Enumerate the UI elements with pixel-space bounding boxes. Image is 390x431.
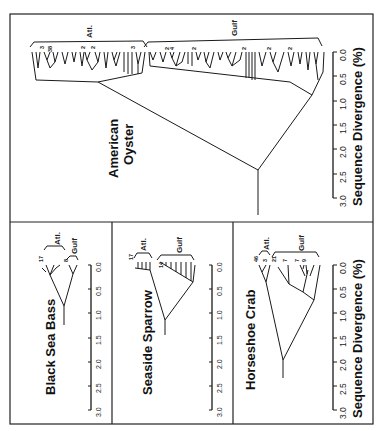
phylogeny-figure: American Oyster [0,0,390,431]
svg-text:1.5: 1.5 [216,335,223,345]
oyster-gulf-bracket [144,38,322,47]
svg-text:2.5: 2.5 [216,383,223,393]
oyster-axis: 0.0 0.5 1.0 1.5 2.0 2.5 3.0 Sequence Div… [333,47,365,207]
svg-text:0.5: 0.5 [338,286,348,298]
sparrow-atl-count: 17 [128,254,134,260]
svg-text:1.5: 1.5 [338,335,348,347]
svg-text:0.5: 0.5 [338,73,348,85]
svg-text:3.0: 3.0 [338,195,348,207]
svg-text:1.0: 1.0 [95,310,102,320]
svg-text:2.0: 2.0 [338,359,348,371]
crab-gulf-label: Gulf [297,235,306,251]
oyster-atl-tips [36,52,141,74]
svg-text:0.5: 0.5 [95,286,102,296]
sparrow-atl-bracket [134,253,152,258]
crab-atl-label: Atl. [262,237,271,250]
oyster-gulf-branch [258,95,312,170]
svg-text:2.0: 2.0 [338,146,348,158]
oyster-axis-label: Sequence Divergence (%) [350,47,365,206]
bass-atl-bracket [44,246,65,250]
oyster-atl-count: 3 [39,46,45,49]
oyster-atl-label: Atl. [85,25,94,38]
svg-text:2.5: 2.5 [95,383,102,393]
svg-text:3.0: 3.0 [95,407,102,417]
svg-text:1.0: 1.0 [216,310,223,320]
panel-american-oyster: American Oyster [30,20,365,215]
oyster-atl-count: 2 [90,46,96,49]
sparrow-title: Seaside Sparrow [140,289,155,395]
crab-gulf-count: 7 [282,259,288,262]
oyster-gulf-count: 2 [287,47,293,50]
bass-atl-count: 17 [38,256,44,262]
svg-text:2.0: 2.0 [216,359,223,369]
svg-text:1.5: 1.5 [338,122,348,134]
oyster-atl-count: 2 [80,46,86,49]
bass-axis: 0.0 0.5 1.0 1.5 2.0 2.5 3.0 [88,262,102,417]
crab-atl-count: 3 [262,259,268,262]
oyster-gulf-count: 2 [266,47,272,50]
oyster-atl-count: 3 [130,46,136,49]
crab-axis: 0.0 0.5 1.0 1.5 2.0 2.5 3.0 Sequence Div… [333,259,365,419]
crab-axis-label: Sequence Divergence (%) [350,259,365,418]
svg-text:0.5: 0.5 [216,286,223,296]
crab-gulf-bracket [272,252,319,257]
oyster-gulf-label: Gulf [230,20,239,36]
sparrow-gulf-label: Gulf [175,237,184,253]
oyster-atl-count: 38 [47,46,53,52]
bass-gulf-label: Gulf [70,238,79,254]
panel-horseshoe-crab: Horseshoe Crab 46 3 21 7 7 9 Atl. Gulf [243,235,365,419]
oyster-title-line1: American [106,119,121,178]
svg-text:1.0: 1.0 [338,98,348,110]
svg-text:0.0: 0.0 [338,262,348,274]
sparrow-axis: 0.0 0.5 1.0 1.5 2.0 2.5 3.0 [209,262,223,417]
panel-seaside-sparrow: Seaside Sparrow 17 14 Atl. Gulf [128,237,223,417]
svg-text:3.0: 3.0 [216,407,223,417]
svg-text:0.0: 0.0 [338,49,348,61]
crab-gulf-count: 9 [301,259,307,262]
svg-text:2.5: 2.5 [338,383,348,395]
svg-text:0.0: 0.0 [95,262,102,272]
oyster-title-line2: Oyster [121,124,136,165]
crab-atl-bracket [259,251,270,255]
svg-text:2.0: 2.0 [95,359,102,369]
svg-text:3.0: 3.0 [338,407,348,419]
bass-title: Black Sea Bass [43,299,58,395]
svg-text:2.5: 2.5 [338,171,348,183]
bass-atl-label: Atl. [53,232,62,245]
crab-title: Horseshoe Crab [243,290,258,390]
svg-text:1.0: 1.0 [338,310,348,322]
sparrow-gulf-count: 14 [158,261,164,268]
svg-text:0.0: 0.0 [216,262,223,272]
crab-atl-count: 46 [253,256,259,262]
oyster-gulf-count: 2 [191,47,197,50]
crab-gulf-count: 7 [294,259,300,262]
panel-frames [10,14,373,424]
panel-black-sea-bass: Black Sea Bass 17 8 Atl. Gulf 0.0 0.5 1.… [38,232,102,417]
oyster-gulf-count: 2 [241,47,247,50]
sparrow-gulf-bracket [157,255,194,260]
svg-text:1.5: 1.5 [95,335,102,345]
oyster-gulf-count: 4 [169,46,175,50]
sparrow-atl-label: Atl. [139,238,148,251]
